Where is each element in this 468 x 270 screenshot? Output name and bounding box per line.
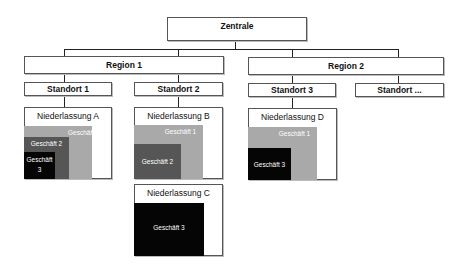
niederlassung-a-label: Niederlassung A — [25, 111, 111, 121]
standort-3-node: Standort 3 — [248, 83, 336, 97]
niederlassung-c-label: Niederlassung C — [135, 188, 222, 198]
geschaeft-3-label: Geschäft 3 — [248, 160, 291, 169]
standort-1-node: Standort 1 — [24, 82, 112, 96]
connector-niederlassung-a — [64, 95, 65, 107]
geschaeft-3-label-line1: Geschäft — [24, 155, 55, 164]
zentrale-label: Zentrale — [168, 21, 306, 31]
standort-2-label: Standort 2 — [135, 84, 222, 94]
region-2-node: Region 2 — [248, 57, 444, 75]
standort-more-label: Standort ... — [356, 85, 443, 95]
connector-region1-right — [178, 49, 179, 56]
niederlassung-c-node: Niederlassung C Geschäft 3 — [134, 184, 223, 256]
connector-region1-left — [64, 49, 65, 56]
geschaeft-2-label: Geschäft 2 — [24, 139, 69, 148]
connector-region2-left — [292, 49, 293, 57]
region-1-label: Region 1 — [25, 60, 223, 70]
geschaeft-3-block: Geschäft 3 — [248, 148, 291, 180]
region-1-node: Region 1 — [24, 56, 224, 74]
geschaeft-3-label: Geschäft 3 — [134, 223, 204, 232]
niederlassung-d-node: Niederlassung D Geschäft 1 Geschäft 3 — [248, 108, 337, 180]
connector-niederlassung-d — [292, 96, 293, 108]
niederlassung-d-label: Niederlassung D — [249, 112, 336, 122]
standort-2-node: Standort 2 — [134, 82, 223, 96]
geschaeft-1-label: Geschäft 1 — [68, 128, 92, 137]
geschaeft-3-block: Geschäft 3 — [24, 152, 55, 179]
connector-niederlassung-b — [178, 95, 179, 107]
standort-3-label: Standort 3 — [249, 85, 335, 95]
geschaeft-3-block: Geschäft 3 — [134, 203, 204, 256]
niederlassung-b-node: Niederlassung B Geschäft 1 Geschäft 2 — [134, 107, 223, 179]
connector-standort1 — [64, 73, 65, 82]
geschaeft-2-label: Geschäft 2 — [134, 157, 181, 166]
zentrale-node: Zentrale — [167, 17, 307, 41]
connector-zentrale-stem — [235, 40, 236, 49]
geschaeft-2-block: Geschäft 2 — [134, 144, 181, 179]
niederlassung-b-label: Niederlassung B — [135, 111, 222, 121]
geschaeft-1-label: Geschäft 1 — [272, 129, 317, 138]
standort-more-node: Standort ... — [355, 83, 444, 97]
geschaeft-1-label: Geschäft 1 — [158, 127, 203, 136]
connector-standort3 — [292, 75, 293, 83]
connector-region2-right — [398, 49, 399, 57]
geschaeft-3-label-line2: 3 — [24, 165, 55, 174]
connector-top-horizontal — [64, 49, 399, 50]
connector-standort2 — [178, 73, 179, 82]
standort-1-label: Standort 1 — [25, 84, 111, 94]
region-2-label: Region 2 — [249, 61, 443, 71]
connector-standort-more — [398, 75, 399, 83]
niederlassung-a-node: Niederlassung A Geschäft 1 Geschäft 2 Ge… — [24, 107, 112, 179]
